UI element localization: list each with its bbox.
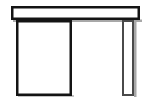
- drawing-canvas: [0, 0, 147, 106]
- tabletop-bar: [12, 7, 139, 19]
- right-leg: [123, 21, 133, 95]
- right-leg-shadow: [134, 22, 137, 97]
- left-panel: [17, 21, 71, 95]
- table-line-drawing: [0, 0, 147, 106]
